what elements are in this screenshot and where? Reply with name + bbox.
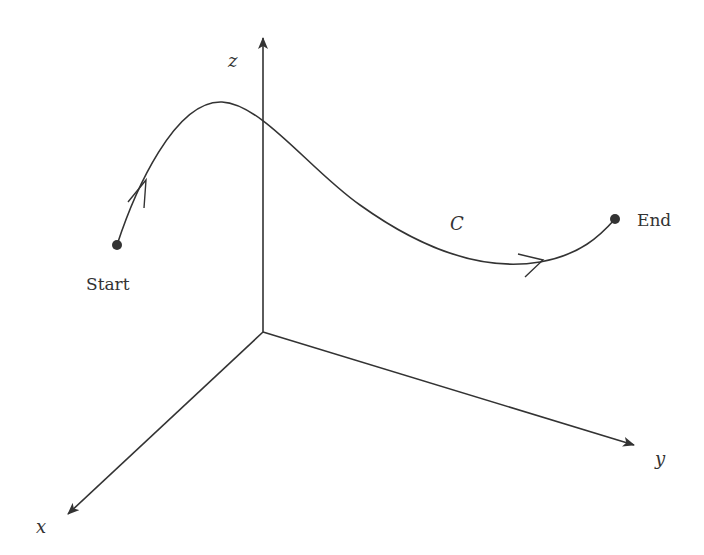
x-axis-label: x [36, 516, 46, 537]
start-label: Start [86, 274, 130, 294]
curve-label: C [450, 213, 464, 234]
start-point [112, 240, 122, 250]
curve-c [117, 102, 615, 264]
y-axis-label: y [654, 448, 666, 469]
z-axis-label: z [227, 50, 238, 71]
direction-arrow-icon [518, 254, 543, 277]
end-point [610, 214, 620, 224]
end-label: End [637, 210, 671, 230]
y-axis [263, 332, 634, 445]
line-integral-diagram: z y x C Start End [0, 0, 704, 555]
x-axis [68, 332, 263, 514]
